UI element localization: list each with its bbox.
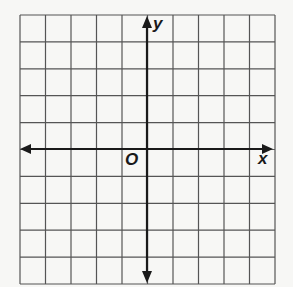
y-axis-up-arrow-icon [142,16,152,28]
y-axis-label: y [153,15,162,32]
axes [20,16,273,283]
y-axis-down-arrow-icon [142,271,152,283]
x-axis-label: x [258,150,267,167]
x-axis-left-arrow-icon [20,144,31,154]
grid-svg [0,0,293,287]
origin-label: O [125,151,138,168]
